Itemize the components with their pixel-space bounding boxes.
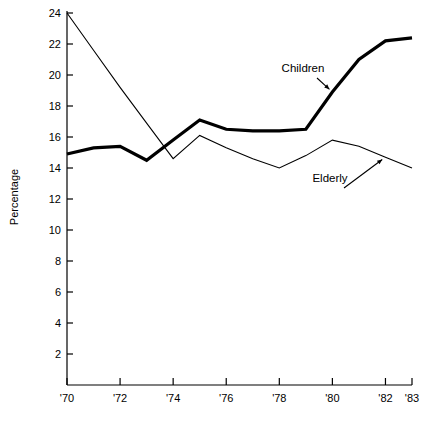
y-tick-label: 8: [55, 255, 61, 267]
y-tick-label: 6: [55, 286, 61, 298]
y-tick-label: 22: [49, 38, 61, 50]
x-tick-label: '82: [378, 392, 392, 404]
y-tick-label: 10: [49, 224, 61, 236]
y-tick-label: 20: [49, 69, 61, 81]
y-tick-label: 24: [49, 7, 61, 19]
chart-background: [0, 0, 430, 425]
x-tick-label: '80: [325, 392, 339, 404]
x-tick-label: '72: [113, 392, 127, 404]
chart-canvas: 24681012141618202224 '70'72'74'76'78'80'…: [0, 0, 430, 425]
line-chart: 24681012141618202224 '70'72'74'76'78'80'…: [0, 0, 430, 425]
y-axis-title: Percentage: [8, 169, 20, 225]
y-tick-label: 16: [49, 131, 61, 143]
x-tick-label: '78: [272, 392, 286, 404]
series-annotation-label: Elderly: [312, 172, 347, 184]
x-tick-label: '74: [166, 392, 180, 404]
y-tick-label: 12: [49, 193, 61, 205]
x-tick-label: '83: [405, 392, 419, 404]
y-tick-label: 2: [55, 348, 61, 360]
x-tick-label: '70: [60, 392, 74, 404]
series-annotation-label: Children: [282, 62, 325, 74]
y-tick-label: 14: [49, 162, 61, 174]
x-tick-label: '76: [219, 392, 233, 404]
y-tick-label: 4: [55, 317, 61, 329]
y-tick-label: 18: [49, 100, 61, 112]
